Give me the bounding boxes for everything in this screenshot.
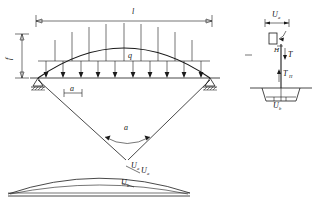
- deflection-curve-upper: [8, 178, 190, 194]
- right-support: [203, 78, 217, 90]
- svg-text:a: a: [278, 15, 281, 20]
- deflection-curve-lower: [10, 185, 188, 194]
- svg-text:T: T: [283, 69, 288, 78]
- svg-text:H: H: [288, 74, 293, 79]
- rise-dimension: [15, 34, 29, 78]
- load-hangers: [55, 23, 192, 61]
- figure-canvas: l f: [0, 0, 312, 206]
- deflection-upper-label: U a: [141, 166, 150, 176]
- angle-label: a: [124, 123, 128, 132]
- deflection-diagram: [8, 166, 190, 196]
- anchor-head-block: [269, 33, 277, 44]
- load-label: q: [128, 51, 132, 60]
- footing-trench: [262, 88, 300, 101]
- svg-text:a: a: [137, 166, 140, 171]
- span-label: l: [132, 7, 135, 16]
- horizontal-force-label: T H: [283, 69, 293, 79]
- svg-text:H: H: [273, 46, 280, 54]
- anchor-top-dimension: [265, 19, 289, 27]
- svg-text:b: b: [279, 106, 282, 111]
- distributed-load-arrows: [44, 61, 204, 78]
- spacing-label: a: [70, 84, 74, 93]
- svg-text:a: a: [147, 171, 150, 176]
- anchor-hook-curve: [279, 31, 286, 39]
- rise-label: f: [4, 56, 13, 60]
- tension-force-arrow: [283, 48, 287, 60]
- tension-force-label: T: [288, 50, 293, 59]
- engineering-figure: l f: [0, 0, 312, 206]
- footing-bottom-label: U b: [273, 101, 282, 111]
- anchor-top-dimension-label: U a: [272, 10, 281, 20]
- horizontal-force-arrow: [277, 69, 281, 82]
